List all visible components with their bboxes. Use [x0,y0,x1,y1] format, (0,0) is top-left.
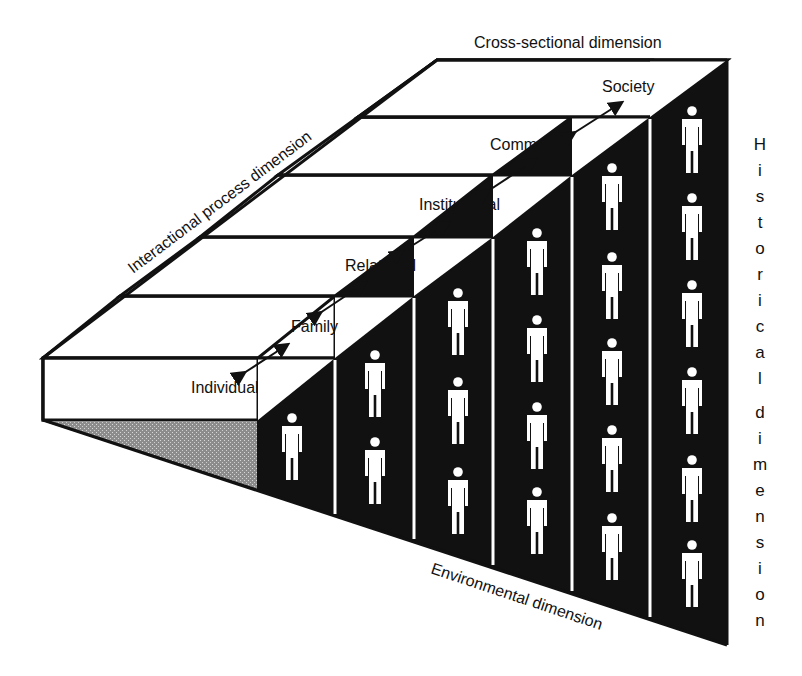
svg-text:c: c [756,317,765,336]
svg-text:n: n [755,507,764,526]
level-label-community: Community [490,136,571,153]
svg-text:r: r [757,265,763,284]
svg-text:d: d [755,403,764,422]
svg-text:s: s [756,533,765,552]
level-label-society: Society [602,78,654,95]
svg-text:e: e [755,481,764,500]
svg-text:t: t [758,213,763,232]
level-label-individual: Individual [191,379,259,396]
svg-text:n: n [755,611,764,630]
svg-text:s: s [756,187,765,206]
svg-text:a: a [755,343,765,362]
svg-text:m: m [753,455,767,474]
cross-sectional-dimension-label: Cross-sectional dimension [474,34,662,51]
level-label-relational: Relational [345,257,416,274]
svg-text:o: o [755,585,764,604]
svg-text:i: i [758,161,762,180]
svg-text:i: i [758,291,762,310]
svg-text:i: i [758,429,762,448]
level-label-family: Family [291,318,338,335]
level-label-institutional: Institutional [419,196,500,213]
svg-text:l: l [758,369,762,388]
svg-text:o: o [755,239,764,258]
svg-text:i: i [758,559,762,578]
historical-dimension-label: H i s t o r i c a l d i m e n s i o n [753,135,767,630]
svg-text:H: H [754,135,766,154]
ecological-dimensions-diagram: Individual Family Relational Institution… [0,0,802,676]
